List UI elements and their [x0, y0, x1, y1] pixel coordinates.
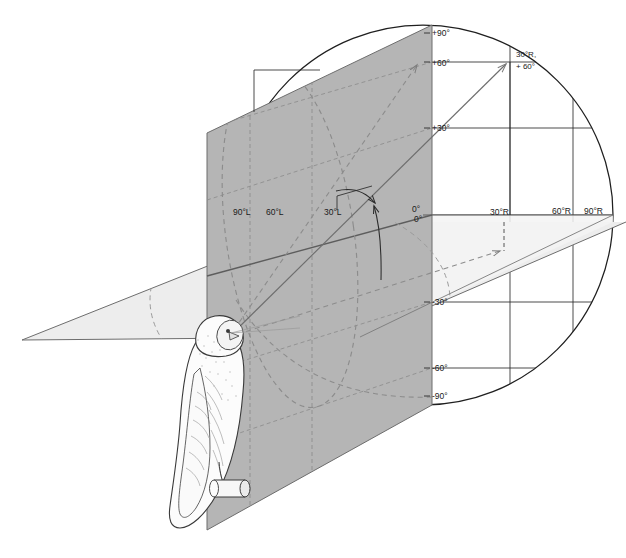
label-elev-plus60: +60° [432, 58, 450, 68]
figure-root: +90° +60° +30° -30° -60° -90° 90°L 60°L … [0, 0, 626, 558]
annotation-target-azimuth: 30°R, [516, 50, 536, 59]
vertical-plane [207, 25, 432, 530]
label-az-origin-lower: 0° [414, 214, 422, 224]
label-az-60L: 60°L [266, 207, 284, 217]
owl-eye [226, 329, 230, 333]
annotation-target-elevation: + 60° [516, 62, 535, 71]
owl-illustration [169, 316, 250, 528]
label-az-origin-upper: 0° [412, 204, 420, 214]
label-az-30R: 30°R [490, 207, 509, 217]
label-elev-plus90: +90° [432, 28, 450, 38]
label-az-90L: 90°L [233, 207, 251, 217]
label-elev-minus30: -30° [432, 297, 448, 307]
label-elev-plus30: +30° [432, 123, 450, 133]
owl-perch [210, 480, 251, 497]
label-az-90R: 90°R [584, 206, 603, 216]
label-az-60R: 60°R [552, 206, 571, 216]
label-elev-minus60: -60° [432, 363, 448, 373]
label-az-30L: 30°L [324, 207, 342, 217]
label-elev-minus90: -90° [432, 391, 448, 401]
owl-coordinate-diagram: +90° +60° +30° -30° -60° -90° 90°L 60°L … [0, 0, 626, 558]
